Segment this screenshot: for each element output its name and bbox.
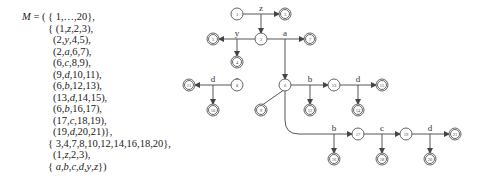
transition-2-a: a — [267, 28, 304, 79]
transition-6-b: b — [291, 74, 328, 104]
svg-text:19: 19 — [404, 132, 409, 137]
state-node-16: 16 — [328, 153, 340, 165]
svg-text:15: 15 — [380, 83, 385, 88]
svg-text:17: 17 — [356, 132, 361, 137]
svg-text:20: 20 — [428, 157, 433, 162]
transition-17-c: c — [364, 123, 400, 153]
state-node-20: 20 — [424, 153, 436, 165]
state-node-11: 11 — [183, 79, 195, 91]
state-node-21: 21 — [449, 128, 461, 140]
svg-text:21: 21 — [453, 132, 458, 137]
svg-text:12: 12 — [308, 108, 313, 113]
edge-label: c — [380, 123, 384, 133]
edge-label: d — [428, 123, 433, 133]
state-node-17: 17 — [352, 128, 364, 140]
svg-text:11: 11 — [187, 83, 191, 88]
state-node-6: 6 — [279, 79, 291, 91]
state-node-19: 19 — [400, 128, 412, 140]
state-node-2: 2 — [255, 33, 267, 45]
state-node-15: 15 — [376, 79, 388, 91]
svg-text:18: 18 — [380, 157, 385, 162]
state-node-18: 18 — [376, 153, 388, 165]
transition-6-b: b — [285, 91, 352, 153]
edge-label: d — [356, 74, 361, 84]
transition-2-y: y — [219, 28, 255, 56]
transition-1-z: z — [243, 3, 279, 33]
transition-19-d: d — [412, 123, 449, 153]
state-node-14: 14 — [352, 104, 364, 116]
svg-text:16: 16 — [332, 157, 337, 162]
svg-text:2: 2 — [260, 37, 262, 42]
state-node-3: 3 — [279, 8, 291, 20]
state-node-12: 12 — [304, 104, 316, 116]
state-node-5: 5 — [207, 33, 219, 45]
svg-text:10: 10 — [211, 108, 216, 113]
state-node-1: 1 — [231, 8, 243, 20]
state-node-7: 7 — [304, 33, 316, 45]
state-node-13: 13 — [328, 79, 340, 91]
edge-label: a — [283, 28, 287, 38]
state-node-9: 9 — [255, 104, 267, 116]
transition-13-d: d — [340, 74, 376, 104]
svg-text:14: 14 — [356, 108, 361, 113]
state-node-4: 4 — [231, 56, 243, 68]
state-node-10: 10 — [207, 104, 219, 116]
svg-text:13: 13 — [332, 83, 337, 88]
transition-graph: zyacdbdbcd 13257468111091312151417161918… — [0, 0, 478, 183]
edge-label: b — [332, 123, 337, 133]
transition-8-d: d — [195, 74, 231, 104]
edge-label: z — [259, 3, 263, 13]
edge-label: y — [235, 28, 240, 38]
edge-label: b — [308, 74, 313, 84]
svg-text:1: 1 — [236, 12, 238, 17]
graph-nodes: 132574681110913121514171619182120 — [183, 8, 461, 165]
state-node-8: 8 — [231, 79, 243, 91]
edge-label: d — [211, 74, 216, 84]
